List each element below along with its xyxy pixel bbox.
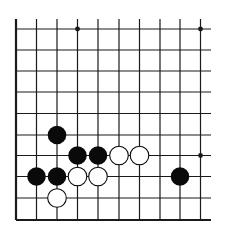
go-board bbox=[0, 0, 227, 236]
star-point-icon bbox=[75, 27, 80, 32]
board-grid bbox=[16, 19, 211, 220]
black-stone bbox=[48, 126, 67, 145]
black-stone bbox=[171, 167, 190, 186]
star-point-icon bbox=[198, 27, 203, 32]
white-stone bbox=[89, 167, 108, 186]
white-stone bbox=[110, 146, 129, 165]
black-stone bbox=[89, 146, 108, 165]
black-stone bbox=[68, 146, 87, 165]
black-stone bbox=[48, 167, 67, 186]
black-stone bbox=[27, 167, 46, 186]
white-stone bbox=[48, 189, 67, 208]
white-stone bbox=[130, 146, 149, 165]
star-point-icon bbox=[198, 153, 203, 158]
white-stone bbox=[68, 167, 87, 186]
stones bbox=[27, 126, 189, 208]
